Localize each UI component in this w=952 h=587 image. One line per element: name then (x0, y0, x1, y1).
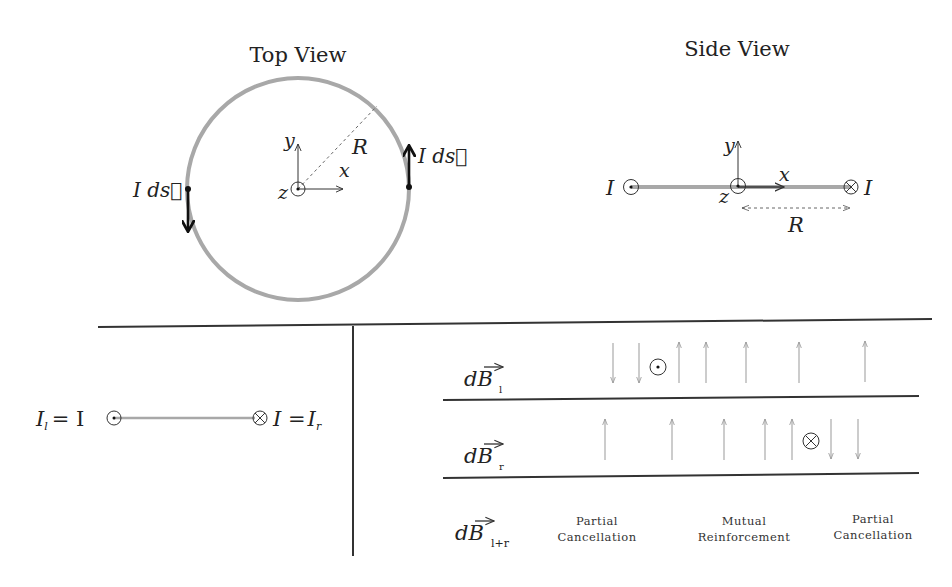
source-out-of-page-icon (650, 359, 666, 375)
z-axis-label: z (277, 181, 289, 203)
svg-text:Mutual: Mutual (722, 514, 767, 528)
side-y-axis-label: y (723, 134, 735, 156)
side-z-axis-label: z (718, 185, 730, 207)
radius-label: R (351, 135, 368, 159)
field-arrows-left-source (613, 341, 865, 383)
field-arrows-right-source (605, 419, 858, 460)
current-element-left-label: I ds⃗ (132, 178, 182, 202)
side-current-right-label: I (863, 176, 873, 200)
horizontal-divider (98, 319, 932, 327)
side-view-panel: Side View I I y x z R (605, 37, 873, 237)
y-axis-label: y (283, 129, 295, 151)
svg-text:dB: dB (464, 367, 493, 391)
top-view-panel: Top View R y x z I ds⃗ I ds⃗ (132, 43, 467, 300)
x-axis-label: x (339, 159, 350, 181)
annotation-mutual-reinforcement: Mutual Reinforcement (698, 514, 791, 544)
svg-text:dB: dB (464, 444, 493, 468)
side-current-left-label: I (605, 176, 615, 200)
top-view-title: Top View (249, 43, 346, 67)
svg-text:Reinforcement: Reinforcement (698, 530, 791, 544)
side-view-title: Side View (684, 37, 790, 61)
side-x-axis-label: x (779, 163, 790, 185)
current-right-symbol: I =Ir (272, 407, 322, 433)
svg-text:Cancellation: Cancellation (557, 530, 636, 544)
bottom-right-panel: dB l dB r dB l+r (443, 341, 919, 550)
row-divider-1 (443, 396, 919, 400)
current-element-right-label: I ds⃗ (417, 144, 467, 168)
row-label-dB-left: dB l (464, 367, 503, 395)
svg-text:l: l (499, 384, 502, 395)
source-into-page-icon (803, 433, 819, 449)
svg-text:Partial: Partial (852, 512, 894, 526)
bottom-left-panel: Il= I I =Ir (35, 407, 322, 433)
side-radius-label: R (787, 213, 804, 237)
annotation-partial-cancellation-left: Partial Cancellation (557, 514, 636, 544)
current-left-symbol: Il= I (35, 407, 84, 433)
row-label-dB-right: dB r (464, 444, 504, 472)
annotation-partial-cancellation-right: Partial Cancellation (833, 512, 912, 542)
current-right-into-page-icon (253, 411, 267, 425)
svg-text:dB: dB (455, 521, 484, 545)
svg-text:r: r (499, 461, 504, 472)
svg-text:Cancellation: Cancellation (833, 528, 912, 542)
magnetic-field-diagram: Top View R y x z I ds⃗ I ds⃗ Side View (0, 0, 952, 587)
row-divider-2 (443, 473, 919, 478)
row-label-dB-sum: dB l+r (455, 521, 510, 550)
svg-text:l+r: l+r (491, 537, 510, 550)
svg-text:Partial: Partial (576, 514, 618, 528)
